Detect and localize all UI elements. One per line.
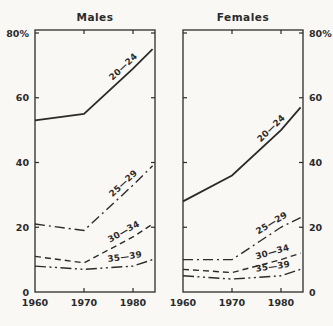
series-label: 30—34 [106,219,141,245]
x-tick-label: 1980 [268,297,295,308]
series-label: 35—39 [107,249,143,264]
x-tick-label: 1970 [219,297,246,308]
y-tick-label: 60 [16,92,30,103]
y-tick-label: 40 [309,157,323,168]
x-tick-label: 1960 [22,297,49,308]
never-married-dual-line-chart: Males Females 19601970198080%604020020—2… [0,0,333,326]
y-tick-label: 60 [309,92,323,103]
x-tick-label: 1980 [120,297,147,308]
y-tick-label: 80% [6,28,29,39]
series-line-35-39 [35,260,153,270]
y-tick-label: 80% [309,28,332,39]
series-label: 35—39 [255,259,291,274]
y-tick-label: 20 [16,222,30,233]
y-tick-label: 0 [22,287,29,298]
x-tick-label: 1960 [170,297,197,308]
series-label: 25—29 [254,210,289,237]
series-line-35-39 [183,269,301,279]
chart-canvas: 19601970198080%604020020—2425—2930—3435—… [0,0,333,326]
y-tick-label: 20 [309,222,323,233]
x-tick-label: 1970 [71,297,98,308]
y-tick-label: 40 [16,157,30,168]
y-tick-label: 0 [309,287,316,298]
